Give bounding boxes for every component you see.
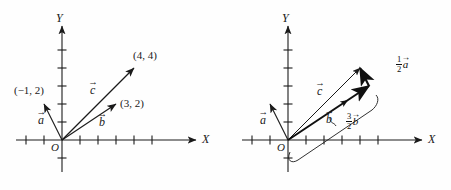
right-vector-b-glyph: b: [326, 113, 332, 125]
right-axis-x-label: X: [428, 133, 435, 145]
right-vector-a-glyph: a: [260, 114, 266, 126]
left-vector-b-glyph: b: [99, 116, 105, 128]
right-vector-label-b: b: [326, 113, 332, 125]
left-point-label-c: (4, 4): [133, 50, 157, 61]
panel-left: X Y O (−1, 2) (3, 2) (4, 4) a b c: [0, 0, 226, 190]
half-a-symbol: a: [403, 59, 409, 70]
right-brace-three-halves-b: [289, 95, 378, 162]
panel-right: X Y O a c b 1 2 a 3 2: [226, 0, 451, 190]
right-origin-label: O: [277, 142, 285, 153]
left-axis-y-label: Y: [56, 12, 63, 24]
left-x-axis: [16, 136, 196, 145]
three-halves-b-symbol: b: [353, 116, 359, 127]
right-vector-c-glyph: c: [317, 85, 322, 97]
right-vector-half-a: [360, 68, 369, 86]
left-vector-label-a: a: [38, 114, 44, 126]
left-vector-label-b: b: [99, 116, 105, 128]
half-a-denominator: 2: [396, 64, 402, 74]
left-origin-label: O: [51, 142, 59, 153]
left-point-label-b: (3, 2): [120, 98, 144, 109]
right-panel-svg: [226, 0, 451, 190]
right-axis-y-label: Y: [282, 12, 289, 24]
right-vector-label-a: a: [260, 114, 266, 126]
left-vector-b: [62, 104, 116, 140]
left-axis-x-label: X: [202, 133, 209, 145]
vector-figure: X Y O (−1, 2) (3, 2) (4, 4) a b c: [0, 0, 451, 190]
right-label-three-halves-b: 3 2 b: [346, 112, 358, 130]
left-vector-a-glyph: a: [38, 114, 44, 126]
right-vector-label-c: c: [317, 85, 322, 97]
three-halves-b-denominator: 2: [346, 121, 352, 131]
right-label-half-a: 1 2 a: [396, 55, 408, 73]
left-vector-label-c: c: [90, 84, 95, 96]
left-vector-c-glyph: c: [90, 84, 95, 96]
left-point-label-a: (−1, 2): [14, 85, 44, 96]
